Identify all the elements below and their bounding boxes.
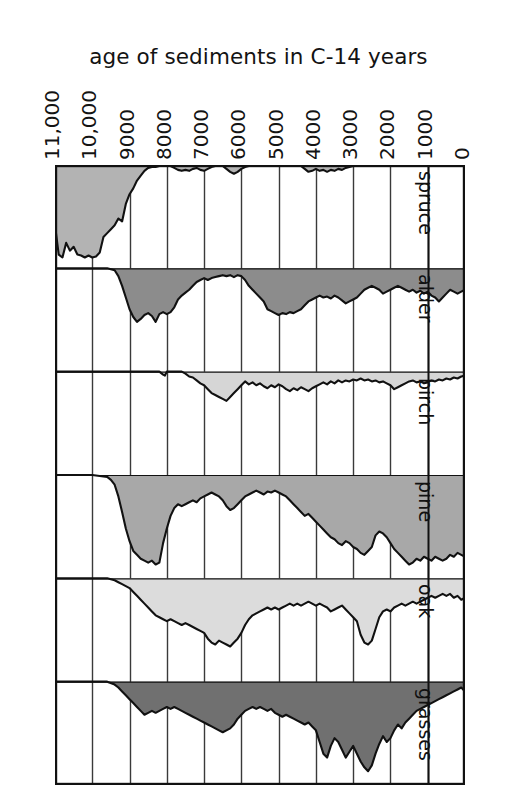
- x-tick-label-6000: 6000: [228, 109, 248, 160]
- x-tick-label-0: 0: [452, 147, 472, 160]
- x-tick-label-8000: 8000: [154, 109, 174, 160]
- pollen-diagram-figure: age of sediments in C-14 years 11,00010,…: [0, 0, 517, 807]
- x-tick-label-9000: 9000: [117, 109, 137, 160]
- x-axis-tick-labels: 11,00010,0009000800070006000500040003000…: [55, 82, 465, 160]
- y-axis-label: number of grains (thousands per cm3): [0, 165, 2, 785]
- x-tick-label-10000: 10,000: [79, 90, 99, 160]
- x-tick-label-11000: 11,000: [42, 90, 62, 160]
- panel-label-birch: birch: [416, 378, 435, 425]
- pollen-curves-svg: [55, 165, 465, 785]
- x-tick-label-1000: 1000: [415, 109, 435, 160]
- y-axis-label-superscript: 3: [0, 715, 2, 724]
- panel-label-alder: alder: [416, 274, 435, 322]
- panel-label-pine: pine: [416, 481, 435, 522]
- x-tick-label-3000: 3000: [340, 109, 360, 160]
- panel-label-grasses: grasses: [416, 688, 435, 761]
- x-tick-label-4000: 4000: [303, 109, 323, 160]
- x-tick-label-2000: 2000: [377, 109, 397, 160]
- x-tick-label-7000: 7000: [191, 109, 211, 160]
- panel-label-spruce: spruce: [416, 171, 435, 235]
- chart-title: age of sediments in C-14 years: [0, 44, 517, 69]
- x-tick-label-5000: 5000: [266, 109, 286, 160]
- plot-area: [55, 165, 465, 785]
- panel-label-oak: oak: [416, 584, 435, 618]
